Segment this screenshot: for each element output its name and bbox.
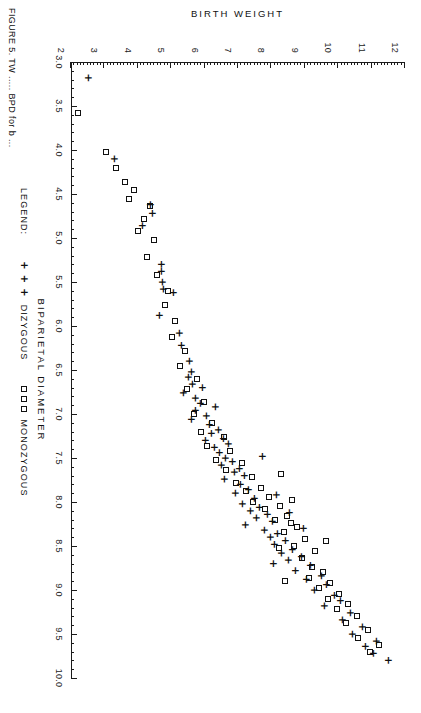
y-axis-minor-tick (217, 62, 218, 65)
data-point-monozygous (334, 606, 340, 612)
y-axis-minor-tick (394, 62, 395, 65)
y-axis-minor-tick (127, 62, 128, 65)
y-axis-minor-tick (274, 62, 275, 65)
data-point-monozygous (325, 596, 331, 602)
data-point-monozygous (148, 203, 154, 209)
data-point-monozygous (288, 520, 294, 526)
y-axis-minor-tick (113, 62, 114, 65)
data-point-dizygous: + (153, 311, 164, 320)
y-axis-minor-tick (341, 62, 342, 65)
x-axis-major-tick (71, 370, 77, 371)
y-axis-minor-tick (344, 62, 345, 65)
y-axis-minor-tick (110, 62, 111, 65)
data-point-monozygous (323, 538, 329, 544)
y-axis-minor-tick (364, 62, 365, 65)
x-axis-major-tick (71, 106, 77, 107)
data-point-monozygous (194, 376, 200, 382)
x-axis-tick-label: 6.0 (54, 319, 64, 332)
x-axis-major-tick (71, 150, 77, 151)
data-point-monozygous (299, 555, 305, 561)
y-axis-minor-tick (187, 62, 188, 65)
y-axis-tick-label: 9 (290, 48, 300, 53)
data-point-monozygous (367, 649, 373, 655)
data-point-monozygous (169, 334, 175, 340)
y-axis-minor-tick (297, 62, 298, 65)
y-axis-minor-tick (307, 62, 308, 65)
data-point-dizygous: + (230, 489, 241, 498)
x-axis-minor-tick (71, 493, 74, 494)
data-point-monozygous (320, 569, 326, 575)
y-axis-major-tick (237, 62, 238, 68)
y-axis-minor-tick (214, 62, 215, 65)
x-axis-minor-tick (71, 616, 74, 617)
x-axis-minor-tick (71, 141, 74, 142)
x-axis-major-tick (71, 634, 77, 635)
y-axis-minor-tick (280, 62, 281, 65)
x-axis-minor-tick (71, 467, 74, 468)
y-axis-minor-tick (351, 62, 352, 65)
y-axis-tick-label: 8 (256, 48, 266, 53)
x-axis-tick-label: 4.5 (54, 187, 64, 200)
x-axis-minor-tick (71, 308, 74, 309)
x-axis-minor-tick (71, 440, 74, 441)
y-axis-minor-tick (310, 62, 311, 65)
y-axis-minor-tick (150, 62, 151, 65)
data-point-monozygous (122, 179, 128, 185)
y-axis-major-tick (304, 62, 305, 68)
data-point-monozygous (302, 536, 308, 542)
legend-label-monozygous: MONOZYGOUS (19, 419, 29, 496)
y-axis-minor-tick (354, 62, 355, 65)
y-axis-minor-tick (164, 62, 165, 65)
y-axis-major-tick (103, 62, 104, 68)
data-point-monozygous (154, 272, 160, 278)
data-point-monozygous (184, 386, 190, 392)
data-point-monozygous (291, 543, 297, 549)
x-axis-minor-tick (71, 669, 74, 670)
x-axis-minor-tick (71, 212, 74, 213)
y-axis-minor-tick (190, 62, 191, 65)
y-axis-minor-tick (184, 62, 185, 65)
y-axis-tick-label: 7 (223, 48, 233, 53)
x-axis-major-tick (71, 194, 77, 195)
legend-entry-monozygous: MONOZYGOUS (19, 386, 29, 496)
x-axis-minor-tick (71, 405, 74, 406)
x-axis-tick-label: 7.0 (54, 407, 64, 420)
figure-caption: FIGURE 5. TW ..... BPD for b ... (7, 8, 17, 148)
y-axis-minor-tick (224, 62, 225, 65)
y-axis-minor-tick (83, 62, 84, 65)
y-axis-minor-tick (367, 62, 368, 65)
data-point-monozygous (376, 642, 382, 648)
x-axis-minor-tick (71, 537, 74, 538)
data-point-monozygous (243, 488, 249, 494)
y-axis-tick-label: 12 (390, 42, 400, 53)
y-axis-minor-tick (244, 62, 245, 65)
y-axis-minor-tick (250, 62, 251, 65)
x-axis-tick-label: 7.5 (54, 451, 64, 464)
y-axis-minor-tick (257, 62, 258, 65)
y-axis-minor-tick (174, 62, 175, 65)
data-point-monozygous (262, 506, 268, 512)
x-axis-minor-tick (71, 203, 74, 204)
legend: LEGEND: +++ DIZYGOUS MONOZYGOUS (19, 188, 29, 497)
y-axis-minor-tick (93, 62, 94, 65)
y-axis-major-tick (270, 62, 271, 68)
x-axis-tick-label: 3.5 (54, 99, 64, 112)
y-axis-minor-tick (234, 62, 235, 65)
figure-scatter-plot: 3.03.54.04.55.05.56.06.57.07.58.08.59.09… (0, 0, 421, 713)
y-axis-minor-tick (290, 62, 291, 65)
y-axis-minor-tick (374, 62, 375, 65)
y-axis-tick-label: 10 (323, 42, 333, 53)
x-axis-tick-label: 4.0 (54, 143, 64, 156)
x-axis-major-tick (71, 414, 77, 415)
data-point-monozygous (289, 497, 295, 503)
x-axis-minor-tick (71, 484, 74, 485)
y-axis-minor-tick (117, 62, 118, 65)
x-axis-title: BIPARIETAL DIAMETER (36, 62, 47, 678)
y-axis-minor-tick (180, 62, 181, 65)
data-point-monozygous (131, 187, 137, 193)
data-point-monozygous (221, 434, 227, 440)
x-axis-major-tick (71, 326, 77, 327)
legend-entry-dizygous: +++ DIZYGOUS (19, 261, 29, 360)
y-axis-minor-tick (327, 62, 328, 65)
y-axis-minor-tick (254, 62, 255, 65)
